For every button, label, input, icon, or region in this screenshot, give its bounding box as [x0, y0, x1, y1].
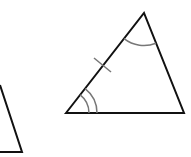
- apex-angle-arc: [124, 39, 156, 46]
- angle-arc-inner: [80, 95, 89, 113]
- main-triangle: [66, 13, 184, 113]
- partial-triangle: [0, 85, 22, 152]
- angle-arc-outer: [85, 89, 97, 113]
- partial-triangle-edges: [0, 85, 22, 152]
- geometry-diagram: [0, 0, 191, 157]
